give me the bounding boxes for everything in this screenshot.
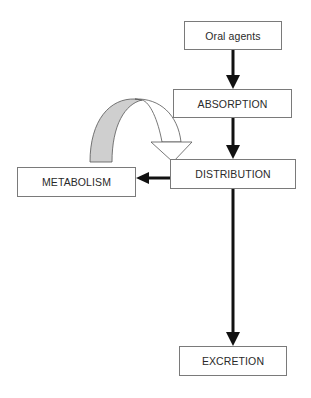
node-absorption: ABSORPTION: [173, 89, 292, 118]
arrow-distribution-to-excretion: [226, 189, 240, 346]
node-label: ABSORPTION: [198, 98, 268, 110]
node-excretion: EXCRETION: [179, 346, 287, 376]
diagram-connectors: [0, 0, 311, 398]
arrow-absorption-to-distribution: [226, 118, 240, 159]
node-label: DISTRIBUTION: [195, 168, 270, 180]
node-label: EXCRETION: [202, 355, 264, 367]
node-oral-agents: Oral agents: [184, 21, 282, 50]
node-distribution: DISTRIBUTION: [170, 159, 296, 189]
arrow-distribution-to-metabolism: [136, 172, 170, 184]
node-metabolism: METABOLISM: [17, 167, 136, 197]
node-label: Oral agents: [205, 30, 260, 42]
node-label: METABOLISM: [42, 176, 111, 188]
arrow-oral-to-absorption: [226, 50, 240, 89]
